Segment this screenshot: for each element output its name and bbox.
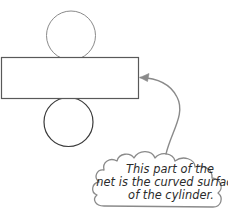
callout-arrow-stem xyxy=(140,78,180,155)
curved-surface-rectangle xyxy=(2,58,139,99)
cylinder-net-diagram: This part of the net is the curved surfa… xyxy=(0,0,228,209)
diagram-canvas: This part of the net is the curved surfa… xyxy=(0,0,228,209)
bottom-circle xyxy=(44,98,93,147)
callout-text-line-3: of the cylinder. xyxy=(128,188,214,202)
top-circle xyxy=(47,11,96,60)
callout-arrow-head-icon xyxy=(140,74,149,82)
callout-text-line-2: net is the curved surface xyxy=(96,175,228,189)
callout-text-line-1: This part of the xyxy=(126,162,214,176)
